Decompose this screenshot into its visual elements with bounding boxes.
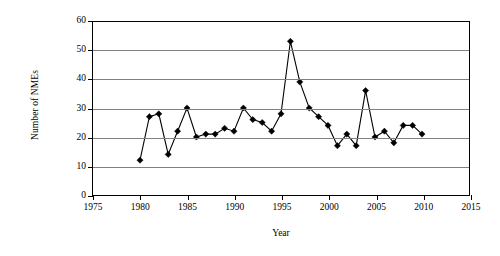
data-point-2004: [363, 88, 369, 94]
y-tick-label-40: 40: [77, 75, 87, 85]
y-tick-60: [88, 21, 93, 22]
series-line: [140, 41, 422, 160]
gridline-y-10: [93, 167, 469, 168]
y-tick-10: [88, 167, 93, 168]
x-tick-2015: [471, 195, 472, 200]
gridline-y-30: [93, 109, 469, 110]
x-tick-1995: [282, 195, 283, 200]
x-axis-title: Year: [92, 228, 470, 238]
x-tick-2010: [424, 195, 425, 200]
data-point-1984: [175, 128, 181, 134]
data-point-1987: [203, 131, 209, 137]
x-tick-label-2015: 2015: [462, 203, 481, 213]
x-tick-label-1990: 1990: [225, 203, 244, 213]
data-point-1980: [137, 157, 143, 163]
x-tick-label-2005: 2005: [367, 203, 386, 213]
data-point-1996: [287, 38, 293, 44]
gridline-y-60: [93, 21, 469, 22]
gridline-y-40: [93, 79, 469, 80]
data-point-1988: [212, 131, 218, 137]
data-point-1982: [156, 111, 162, 117]
x-tick-2000: [329, 195, 330, 200]
x-tick-1975: [93, 195, 94, 200]
y-tick-label-60: 60: [77, 16, 87, 26]
data-point-1995: [278, 111, 284, 117]
x-tick-1990: [235, 195, 236, 200]
x-tick-label-1980: 1980: [131, 203, 150, 213]
data-point-1990: [231, 128, 237, 134]
data-point-1983: [165, 151, 171, 157]
x-tick-1980: [140, 195, 141, 200]
y-tick-30: [88, 109, 93, 110]
data-point-1989: [222, 125, 228, 131]
x-tick-label-1985: 1985: [178, 203, 197, 213]
y-tick-label-30: 30: [77, 104, 87, 114]
y-axis-title: Number of NMEs: [30, 15, 44, 195]
y-tick-label-50: 50: [77, 45, 87, 55]
x-tick-label-2000: 2000: [320, 203, 339, 213]
y-tick-label-20: 20: [77, 133, 87, 143]
chart-container: Number of NMEs 0102030405060197519801985…: [0, 0, 500, 256]
plot-area: 0102030405060197519801985199019952000200…: [92, 21, 470, 196]
data-point-1981: [146, 114, 152, 120]
x-tick-label-1995: 1995: [273, 203, 292, 213]
y-tick-label-10: 10: [77, 162, 87, 172]
x-tick-label-1975: 1975: [84, 203, 103, 213]
x-tick-1985: [188, 195, 189, 200]
y-tick-20: [88, 138, 93, 139]
y-tick-label-0: 0: [81, 191, 86, 201]
gridline-y-50: [93, 50, 469, 51]
x-tick-2005: [377, 195, 378, 200]
data-point-2008: [400, 122, 406, 128]
gridline-y-20: [93, 138, 469, 139]
x-tick-label-2010: 2010: [414, 203, 433, 213]
y-tick-40: [88, 79, 93, 80]
y-tick-50: [88, 50, 93, 51]
